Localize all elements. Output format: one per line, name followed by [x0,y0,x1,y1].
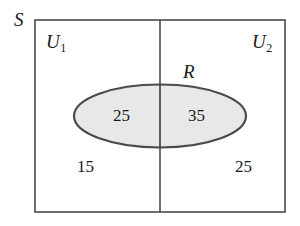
region-count-not-r-and-u2: 25 [235,158,252,175]
region-count-r-and-u2: 35 [188,107,205,124]
region-count-r-and-u1: 25 [113,107,130,124]
partition-u1-base: U [46,31,60,52]
partition-u1-subscript: 1 [60,41,66,55]
partition-u2-base: U [252,31,266,52]
region-count-not-r-and-u1: 15 [77,158,94,175]
venn-diagram-figure: S U1 U2 R 25 35 15 25 [0,0,300,226]
universe-label-s: S [14,10,24,29]
partition-label-u2: U2 [252,32,272,51]
partition-label-u1: U1 [46,32,66,51]
set-label-r: R [183,62,195,81]
partition-u2-subscript: 2 [266,41,272,55]
